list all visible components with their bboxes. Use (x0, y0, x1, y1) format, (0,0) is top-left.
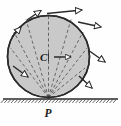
rolling-wheel-diagram: C P (0, 0, 121, 126)
contact-point-label: P (45, 107, 53, 119)
center-label: C (40, 51, 48, 63)
rolling-wheel-figure: C P (0, 0, 121, 126)
